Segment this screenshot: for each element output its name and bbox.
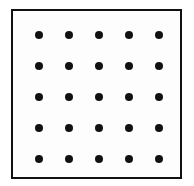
- grid-dot-r5-c2: [65, 155, 73, 163]
- grid-dot-r2-c4: [125, 62, 133, 70]
- grid-dot-r3-c5: [155, 93, 163, 101]
- grid-dot-r5-c4: [125, 155, 133, 163]
- grid-dot-r1-c5: [155, 31, 163, 39]
- grid-dot-r4-c3: [95, 124, 103, 132]
- grid-dot-r4-c4: [125, 124, 133, 132]
- grid-dot-r1-c4: [125, 31, 133, 39]
- grid-dot-r4-c1: [35, 124, 43, 132]
- grid-dot-r1-c1: [35, 31, 43, 39]
- grid-dot-r5-c5: [155, 155, 163, 163]
- grid-dot-r3-c3: [95, 93, 103, 101]
- grid-dot-r5-c3: [95, 155, 103, 163]
- grid-dot-r2-c5: [155, 62, 163, 70]
- grid-dot-r3-c2: [65, 93, 73, 101]
- grid-dot-r3-c4: [125, 93, 133, 101]
- grid-dot-r4-c5: [155, 124, 163, 132]
- grid-dot-r2-c3: [95, 62, 103, 70]
- square-border-frame: [11, 9, 182, 179]
- grid-dot-r5-c1: [35, 155, 43, 163]
- grid-dot-r1-c3: [95, 31, 103, 39]
- grid-dot-r4-c2: [65, 124, 73, 132]
- figure-canvas: [0, 0, 194, 186]
- grid-dot-r2-c2: [65, 62, 73, 70]
- grid-dot-r3-c1: [35, 93, 43, 101]
- grid-dot-r1-c2: [65, 31, 73, 39]
- grid-dot-r2-c1: [35, 62, 43, 70]
